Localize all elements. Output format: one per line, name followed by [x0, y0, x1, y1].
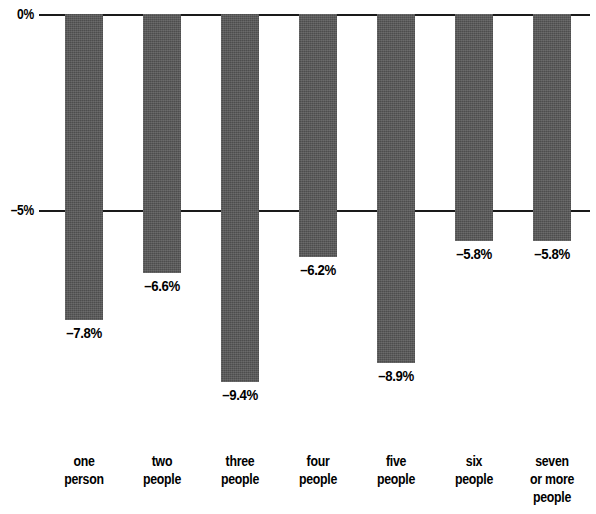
bar-value-label: –5.8%	[518, 245, 587, 262]
bar-value-label: –5.8%	[440, 245, 509, 262]
bar	[221, 14, 259, 382]
bar	[65, 14, 103, 320]
bar	[377, 14, 415, 363]
bar-value-label: –6.6%	[128, 277, 197, 294]
y-axis-tick-minus-5: –5%	[0, 202, 34, 218]
bar-chart: 0% –5% –7.8%oneperson–6.6%twopeople–9.4%…	[0, 0, 596, 514]
x-axis-category-label: twopeople	[126, 452, 198, 488]
category-label-line: people	[516, 488, 588, 506]
category-label-line: people	[438, 470, 510, 488]
x-axis-category-label: sevenor morepeople	[516, 452, 588, 506]
bar	[455, 14, 493, 241]
x-axis-category-label: threepeople	[204, 452, 276, 488]
x-axis-category-label: fourpeople	[282, 452, 354, 488]
x-axis-category-label: sixpeople	[438, 452, 510, 488]
category-label-line: five	[360, 452, 432, 470]
category-label-line: people	[360, 470, 432, 488]
bar-value-label: –9.4%	[206, 386, 275, 403]
bar	[143, 14, 181, 273]
category-label-line: people	[126, 470, 198, 488]
x-axis-category-label: oneperson	[48, 452, 120, 488]
category-label-line: seven	[516, 452, 588, 470]
bar-value-label: –7.8%	[50, 324, 119, 341]
bar-value-label: –8.9%	[362, 367, 431, 384]
x-axis-category-label: fivepeople	[360, 452, 432, 488]
bar-value-label: –6.2%	[284, 261, 353, 278]
bar	[533, 14, 571, 241]
y-axis-tick-0: 0%	[0, 6, 34, 22]
category-label-line: people	[204, 470, 276, 488]
category-label-line: six	[438, 452, 510, 470]
category-label-line: or more	[516, 470, 588, 488]
category-label-line: people	[282, 470, 354, 488]
category-label-line: person	[48, 470, 120, 488]
bar	[299, 14, 337, 257]
category-label-line: four	[282, 452, 354, 470]
category-label-line: three	[204, 452, 276, 470]
category-label-line: one	[48, 452, 120, 470]
category-label-line: two	[126, 452, 198, 470]
